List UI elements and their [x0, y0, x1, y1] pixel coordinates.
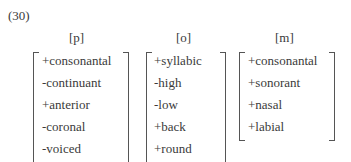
feature: +nasal: [248, 98, 282, 111]
segment-label: [m]: [275, 30, 294, 46]
feature: +syllabic: [154, 54, 202, 67]
feature: +consonantal: [42, 54, 111, 67]
feature: +anterior: [42, 98, 90, 111]
feature: -continuant: [42, 76, 101, 89]
feature: +round: [154, 142, 192, 155]
example-number: (30): [8, 8, 30, 24]
segment-label: [p]: [69, 30, 84, 46]
feature: +consonantal: [248, 54, 317, 67]
feature: -high: [154, 76, 181, 89]
feature: -coronal: [42, 120, 85, 133]
segment-label: [o]: [176, 30, 191, 46]
feature: -low: [154, 98, 178, 111]
feature: -voiced: [42, 142, 81, 155]
feature: +labial: [248, 120, 284, 133]
feature: +back: [154, 120, 186, 133]
feature: +sonorant: [248, 76, 300, 89]
